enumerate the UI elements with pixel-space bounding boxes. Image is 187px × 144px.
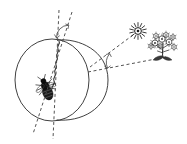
sun-center-dot	[137, 30, 140, 33]
waggle-dance-figure: Honeybee waggle dance orientation diagra…	[0, 0, 187, 144]
figure-canvas	[0, 0, 187, 144]
figure-background	[0, 0, 187, 144]
